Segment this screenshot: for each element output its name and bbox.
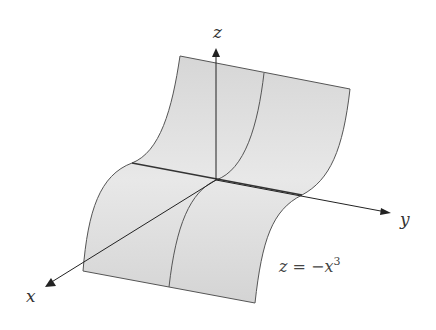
equation-lhs: z	[279, 257, 287, 276]
equation-label: z = −x3	[279, 256, 340, 275]
equation-equals: =	[293, 257, 306, 276]
x-axis-arrow-icon	[45, 278, 56, 287]
z-axis-arrow-icon	[212, 48, 220, 57]
cubic-surface-diagram	[0, 0, 436, 330]
x-axis-label: x	[26, 288, 36, 305]
z-axis-label: z	[213, 24, 222, 41]
equation-exponent: 3	[333, 255, 340, 268]
equation-rhs: −x	[311, 257, 333, 276]
y-axis-arrow-icon	[380, 208, 391, 215]
y-axis-label: y	[400, 211, 410, 228]
